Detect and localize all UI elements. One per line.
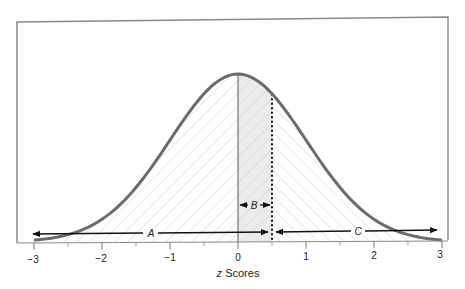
x-axis-title: z Scores <box>216 267 260 279</box>
region-c-label: C <box>354 226 362 237</box>
region-b-label: B <box>251 200 258 211</box>
tick-label-m2: −2 <box>95 253 107 264</box>
region-b-hatch <box>238 74 272 242</box>
region-a-hatch <box>34 74 272 242</box>
normal-distribution-chart: −3 −2 −1 0 1 2 3 z Scores A B C <box>0 0 465 289</box>
tick-label-m1: −1 <box>164 252 176 263</box>
tick-label-2: 2 <box>371 250 377 261</box>
x-axis-title-rest: Scores <box>222 267 260 279</box>
region-c-hatch <box>272 94 442 242</box>
tick-label-m3: −3 <box>27 254 39 265</box>
tick-label-0: 0 <box>235 252 241 263</box>
region-a-label: A <box>147 228 155 239</box>
tick-label-3: 3 <box>437 249 443 260</box>
tick-label-1: 1 <box>303 251 309 262</box>
